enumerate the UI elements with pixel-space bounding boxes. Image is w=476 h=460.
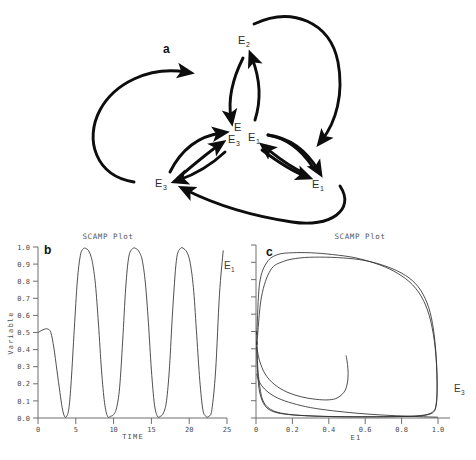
node-e1-center-sub: 1 [256,138,260,145]
panel-c-x-tick-label: 0.6 [359,426,372,434]
node-e1-center-base: E [248,131,255,143]
node-e1-right-sub: 1 [320,185,324,192]
panel-b-y-tick-label: 0.4 [17,346,30,354]
panel-a-diagram: a E 2 E E 3 E 1 E 3 E 1 [0,0,476,225]
panel-b-letter: b [44,243,51,257]
node-e2-top: E 2 [238,34,250,48]
panel-c-x-tick-label: 0.2 [286,426,299,434]
panel-c-x-tick-label: 0.4 [322,426,335,434]
panel-b-x-ticks: 0510152025 [36,418,231,434]
panel-b-y-tick-label: 0.8 [17,278,30,286]
panel-c-x-tick-label: 0 [254,426,258,434]
panel-b-curve-label-base: E [224,260,231,271]
panel-b-y-tick-label: 0.9 [17,261,30,269]
panel-b-x-tick-label: 0 [36,426,40,434]
node-e-center-base: E [234,121,241,133]
node-e3-center: E 3 [228,133,240,147]
panel-b-curve-label: E 1 [224,260,235,273]
panel-c-x-tick-label: 0.8 [395,426,408,434]
panel-a-letter: a [163,42,170,56]
arrow-center-to-e1right [262,150,305,176]
panel-c-series-limit-cycle-outer [257,253,437,417]
panel-c-x-ticks: 00.20.40.60.81.0 [254,418,444,434]
panel-c-x-tick-label: 1.0 [432,426,445,434]
panel-c-phase-portrait: SCAMP Plot c 00.20.40.60.81.0 E1 E 3 [238,225,476,460]
panel-b-y-tick-label: 0.0 [17,415,30,423]
panel-c-svg: SCAMP Plot c 00.20.40.60.81.0 E1 E 3 [238,225,476,460]
panel-c-curve-label-base: E [454,383,461,394]
arrow-e2-to-center [230,58,243,118]
panel-c-series-limit-cycle-second [257,257,437,417]
node-e3-center-base: E [228,133,235,145]
panel-b-ylabel: Variable [7,311,15,354]
panel-c-series-transient-spiral [257,347,348,400]
node-e2-top-base: E [238,34,245,46]
panel-b-y-tick-label: 0.2 [17,380,30,388]
panel-b-timeseries: SCAMP Plot b 0.00.10.20.30.40.50.60.70.8… [0,225,240,460]
panel-b-plot-title: SCAMP Plot [82,232,133,241]
node-e3-left: E 3 [155,177,167,191]
panel-b-series-E1 [38,248,223,418]
panel-c-plot-title: SCAMP Plot [334,232,385,241]
panel-c-xlabel: E1 [351,434,362,442]
panel-b-y-tick-label: 1.0 [17,244,30,252]
figure-root: a E 2 E E 3 E 1 E 3 E 1 [0,0,476,460]
panel-b-axes [38,247,227,418]
panel-b-y-ticks: 0.00.10.20.30.40.50.60.70.80.91.0 [17,244,38,423]
panel-c-curve-label: E 3 [454,383,465,396]
panel-b-y-tick-label: 0.1 [17,398,30,406]
panel-b-curve-label-sub: 1 [231,266,235,273]
panel-b-x-tick-label: 15 [147,426,155,434]
arrow-loop-top-to-right [254,17,340,140]
node-e1-right-base: E [312,178,319,190]
node-e1-center: E 1 [248,131,260,145]
panel-c-curves [257,253,438,418]
node-e-center: E [234,121,241,133]
panel-c-curve-label-sub: 3 [461,389,465,396]
panel-b-curves [38,248,223,418]
arrow-ring-e3left-inner [170,133,221,172]
node-e3-center-sub: 3 [236,140,240,147]
panel-b-xlabel: TIME [122,433,144,441]
panel-b-y-tick-label: 0.3 [17,363,30,371]
node-e3-left-sub: 3 [163,184,167,191]
panel-c-y-ticks [251,245,256,418]
node-e2-top-sub: 2 [246,41,250,48]
panel-c-axes [256,245,450,418]
panel-b-y-tick-label: 0.7 [17,295,30,303]
node-e3-left-base: E [155,177,162,189]
panel-b-x-tick-label: 20 [185,426,193,434]
diagram-svg: a E 2 E E 3 E 1 E 3 E 1 [0,0,476,225]
panel-b-y-tick-label: 0.6 [17,312,30,320]
panel-b-x-tick-label: 25 [223,426,231,434]
node-e1-right: E 1 [312,178,324,192]
arc-ring-e1right-inner [268,135,312,166]
panel-b-x-tick-label: 10 [109,426,117,434]
panel-c-letter: c [266,245,273,259]
panel-b-svg: SCAMP Plot b 0.00.10.20.30.40.50.60.70.8… [0,225,240,460]
panel-b-x-tick-label: 5 [74,426,78,434]
arrow-center-to-e2 [252,58,259,120]
panel-b-y-tick-label: 0.5 [17,329,30,337]
